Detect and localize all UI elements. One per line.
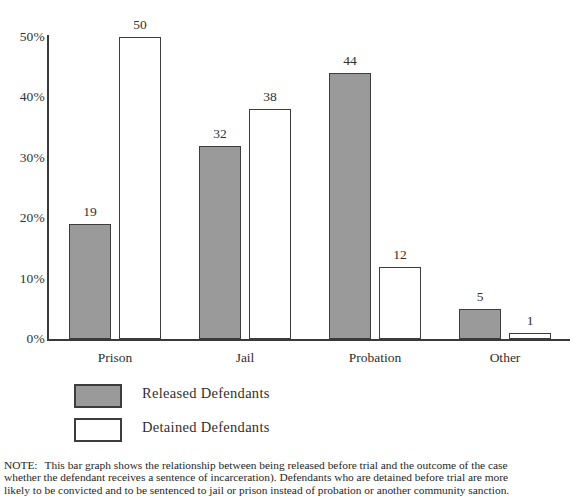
category-label-probation: Probation: [315, 350, 435, 366]
y-tick-label: 50%: [5, 29, 45, 45]
bar-probation-released: [329, 73, 371, 339]
bar-other-detained: [509, 333, 551, 339]
chart-legend: Released Defendants Detained Defendants: [74, 382, 374, 450]
legend-item-released: Released Defendants: [74, 382, 374, 416]
y-tick-label: 0%: [5, 331, 45, 347]
bar-value-label: 32: [199, 126, 241, 142]
bar-value-label: 12: [379, 247, 421, 263]
category-label-prison: Prison: [55, 350, 175, 366]
bar-value-label: 38: [249, 89, 291, 105]
y-tick-label: 20%: [5, 210, 45, 226]
bar-jail-released: [199, 146, 241, 339]
y-tick-label: 30%: [5, 150, 45, 166]
bar-value-label: 50: [119, 17, 161, 33]
category-label-other: Other: [445, 350, 565, 366]
y-tick-label: 40%: [5, 89, 45, 105]
bar-probation-detained: [379, 267, 421, 339]
note-line-1: NOTE:This bar graph shows the relationsh…: [4, 459, 572, 471]
bar-chart-figure: 0%10%20%30%40%50% 19503238441251 PrisonJ…: [0, 0, 576, 503]
bar-value-label: 5: [459, 289, 501, 305]
bar-jail-detained: [249, 109, 291, 339]
bar-prison-detained: [119, 37, 161, 339]
bar-other-released: [459, 309, 501, 339]
legend-swatch-detained: [74, 418, 122, 442]
legend-item-detained: Detained Defendants: [74, 416, 374, 450]
x-axis-line: [47, 339, 570, 341]
note-label: NOTE:: [4, 459, 38, 471]
legend-label-detained: Detained Defendants: [142, 419, 270, 436]
bar-value-label: 19: [69, 204, 111, 220]
plot-area: 0%10%20%30%40%50% 19503238441251 PrisonJ…: [0, 0, 576, 370]
legend-label-released: Released Defendants: [142, 385, 270, 402]
legend-swatch-released: [74, 384, 122, 408]
bar-value-label: 44: [329, 53, 371, 69]
bar-value-label: 1: [509, 313, 551, 329]
y-tick-label: 10%: [5, 271, 45, 287]
note-line-3: likely to be convicted and to be sentenc…: [4, 484, 572, 496]
note-line-2: whether the defendant receives a sentenc…: [4, 471, 572, 483]
bar-prison-released: [69, 224, 111, 339]
category-label-jail: Jail: [185, 350, 305, 366]
chart-note: NOTE:This bar graph shows the relationsh…: [4, 459, 572, 496]
y-axis-line: [47, 35, 49, 341]
note-text-1: This bar graph shows the relationship be…: [45, 459, 508, 471]
